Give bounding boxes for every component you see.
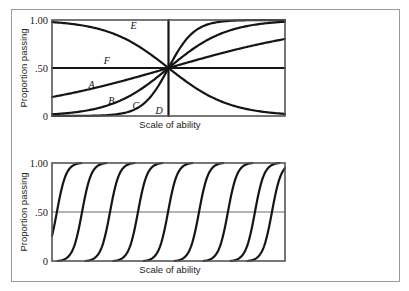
bottom-ytick-0.50: .50 bbox=[35, 207, 48, 218]
curve-item-9 bbox=[247, 168, 285, 261]
top-y-axis-label: Proportion passing bbox=[18, 28, 29, 107]
curve-label-D: D bbox=[155, 105, 164, 116]
curve-label-A: A bbox=[88, 79, 96, 90]
bottom-x-axis-label: Scale of ability bbox=[139, 264, 201, 275]
top-ytick-0.50: .50 bbox=[35, 63, 48, 74]
bottom-chart: Proportion passing 1.00 .50 0 Scale of a… bbox=[18, 158, 285, 275]
bottom-ytick-0: 0 bbox=[43, 256, 48, 267]
top-x-axis-label: Scale of ability bbox=[139, 119, 201, 130]
curve-label-C: C bbox=[133, 100, 140, 111]
figure: Proportion passing 1.00 .50 0 ABCDEF Sca… bbox=[0, 0, 409, 291]
curve-label-B: B bbox=[108, 95, 114, 106]
bottom-ytick-1.00: 1.00 bbox=[30, 158, 48, 169]
bottom-y-axis-label: Proportion passing bbox=[18, 172, 29, 251]
curve-label-F: F bbox=[103, 55, 111, 66]
curve-item-1 bbox=[52, 163, 81, 236]
curve-label-E: E bbox=[129, 20, 136, 31]
top-ytick-0: 0 bbox=[43, 111, 48, 122]
figure-border bbox=[12, 10, 400, 282]
top-ytick-1.00: 1.00 bbox=[30, 15, 48, 26]
top-chart: Proportion passing 1.00 .50 0 ABCDEF Sca… bbox=[18, 15, 285, 130]
